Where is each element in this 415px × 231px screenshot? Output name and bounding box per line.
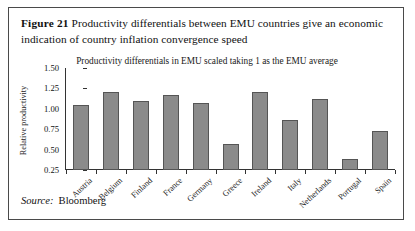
x-axis-tick-mark <box>245 170 246 174</box>
bar <box>193 103 209 170</box>
x-axis-tick-mark <box>126 170 127 174</box>
x-axis-tick-mark <box>305 170 306 174</box>
bar <box>223 144 239 170</box>
bar <box>163 95 179 170</box>
chart-title: Productivity differentials in EMU scaled… <box>9 56 405 66</box>
x-axis-tick-mark <box>216 170 217 174</box>
x-axis-tick-mark <box>66 170 67 174</box>
bar <box>342 159 358 170</box>
bar <box>282 120 298 170</box>
y-axis-label: Relative productivity <box>19 79 28 163</box>
y-axis-tick-mark <box>83 170 87 171</box>
x-axis-tick-mark <box>395 170 396 174</box>
figure-caption: Figure 21 Productivity differentials bet… <box>21 16 389 47</box>
y-axis-tick-label: 0.75 <box>44 125 59 134</box>
y-axis-tick-label: 1.00 <box>44 105 59 114</box>
bar <box>372 131 388 170</box>
bar <box>103 92 119 170</box>
source-value: Bloomberg <box>59 195 106 206</box>
source-label: Source: <box>21 195 54 206</box>
bar <box>252 92 268 170</box>
source-note: Source:Bloomberg <box>21 195 106 206</box>
y-axis-tick-label: 1.50 <box>44 64 59 73</box>
figure-label: Figure 21 <box>21 17 69 29</box>
chart-plot-area: Relative productivity 1.501.251.000.750.… <box>9 68 405 198</box>
figure-panel: Figure 21 Productivity differentials bet… <box>8 7 404 220</box>
x-axis-tick-mark <box>275 170 276 174</box>
bar <box>133 101 149 170</box>
y-axis-tick-label: 0.50 <box>44 145 59 154</box>
bar <box>73 105 89 170</box>
bar <box>312 99 328 170</box>
x-axis-tick-mark <box>96 170 97 174</box>
x-axis-tick-mark <box>156 170 157 174</box>
y-axis-tick-label: 1.25 <box>44 84 59 93</box>
x-axis-tick-label: Spain <box>387 163 407 182</box>
figure-caption-text: Productivity differentials between EMU c… <box>21 17 383 45</box>
y-axis-tick-label: 0.25 <box>44 166 59 175</box>
x-axis-tick-mark <box>365 170 366 174</box>
bar-series: AustriaBelgiumFinlandFranceGermanyGreece… <box>66 68 395 170</box>
x-axis-tick-mark <box>186 170 187 174</box>
x-axis-tick-mark <box>335 170 336 174</box>
y-axis-ticks: 1.501.251.000.750.500.25 <box>31 68 59 170</box>
